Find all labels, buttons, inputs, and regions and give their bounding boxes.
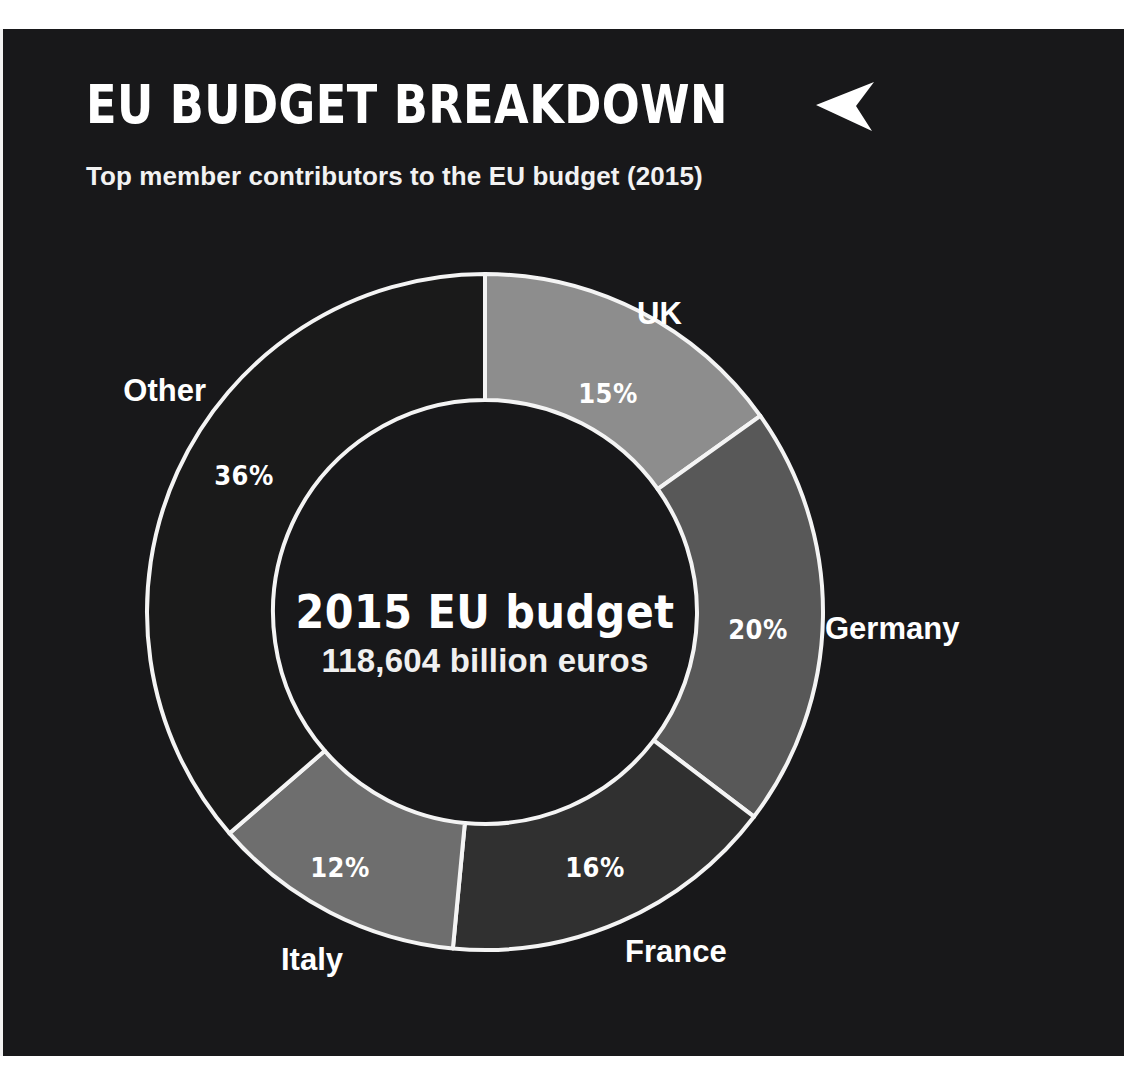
slice-label-uk: UK xyxy=(637,296,682,331)
slice-label-france: France xyxy=(625,934,727,969)
slice-percent-france: 16% xyxy=(565,852,625,883)
donut-chart-svg: 15%UK20%Germany16%France12%Italy36%Other… xyxy=(0,29,1124,1056)
slice-label-germany: Germany xyxy=(825,611,960,646)
slice-percent-other: 36% xyxy=(214,460,274,491)
slice-percent-uk: 15% xyxy=(578,378,638,409)
center-amount: 118,604 billion euros xyxy=(321,642,648,679)
donut-slice-other[interactable] xyxy=(147,274,485,833)
donut-chart: 15%UK20%Germany16%France12%Italy36%Other… xyxy=(0,29,1124,1056)
infographic-page: EU BUDGET BREAKDOWN Top member contribut… xyxy=(0,0,1124,1073)
slice-percent-italy: 12% xyxy=(310,852,370,883)
center-headline: 2015 EU budget xyxy=(295,585,674,639)
slice-percent-germany: 20% xyxy=(728,614,788,645)
slice-label-italy: Italy xyxy=(281,942,344,977)
infographic-panel: EU BUDGET BREAKDOWN Top member contribut… xyxy=(0,29,1124,1056)
slice-label-other: Other xyxy=(123,373,206,408)
